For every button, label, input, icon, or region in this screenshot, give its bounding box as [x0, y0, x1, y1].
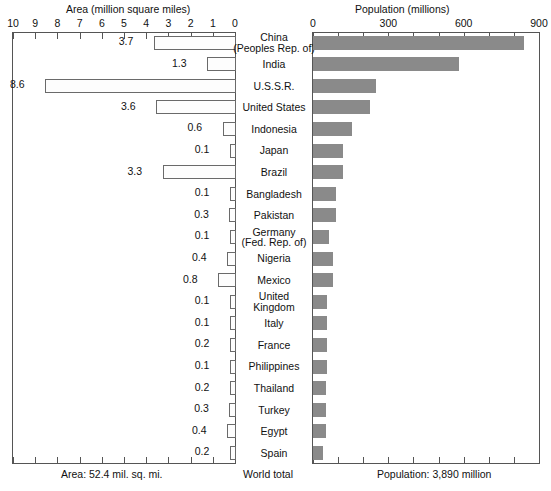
chart-row: 0.8Mexico: [0, 270, 551, 292]
area-bar: [230, 316, 236, 330]
area-bar-cell: 0.1: [0, 226, 236, 248]
left-tick-label-4: 4: [143, 17, 149, 29]
chart-row: 3.3Brazil: [0, 162, 551, 184]
population-bar-cell: [313, 32, 541, 54]
area-bar-cell: 0.3: [0, 205, 236, 227]
population-bar: [313, 122, 352, 136]
country-label: Thailand: [238, 378, 310, 400]
chart-row: 0.6Indonesia: [0, 118, 551, 140]
left-tick-label-1: 1: [210, 17, 216, 29]
chart-row: 3.7China(Peoples Rep. of): [0, 32, 551, 54]
population-bar: [313, 36, 524, 50]
population-bar: [313, 57, 459, 71]
country-label-line: Thailand: [254, 383, 294, 394]
country-label: Brazil: [238, 162, 310, 184]
country-label: Italy: [238, 313, 310, 335]
population-bar-cell: [313, 356, 541, 378]
area-value-label: 0.2: [195, 381, 213, 393]
area-value-label: 0.2: [195, 445, 213, 457]
area-bar: [227, 252, 236, 266]
left-tick-label-9: 9: [32, 17, 38, 29]
left-tick-label-10: 10: [7, 17, 19, 29]
area-bar-cell: 0.1: [0, 313, 236, 335]
population-bar-cell: [313, 226, 541, 248]
area-value-label: 0.3: [194, 208, 212, 220]
population-bar: [313, 100, 370, 114]
country-label-line: Turkey: [258, 405, 290, 416]
population-bar-cell: [313, 118, 541, 140]
chart-row: 0.1Italy: [0, 313, 551, 335]
area-bar-cell: 3.3: [0, 162, 236, 184]
country-label-line: Pakistan: [254, 210, 294, 221]
left-tick-label-2: 2: [188, 17, 194, 29]
country-label: U.S.S.R.: [238, 75, 310, 97]
population-bar: [313, 187, 336, 201]
footer-population-total: Population: 3,890 million: [377, 468, 491, 480]
population-bar: [313, 165, 343, 179]
country-label: Mexico: [238, 270, 310, 292]
population-bar-cell: [313, 442, 541, 464]
country-label: China(Peoples Rep. of): [238, 32, 310, 54]
area-bar-cell: 0.1: [0, 356, 236, 378]
country-label: UnitedKingdom: [238, 291, 310, 313]
area-value-label: 0.1: [195, 143, 213, 155]
country-label: Japan: [238, 140, 310, 162]
right-tick-label-0: 0: [310, 17, 316, 29]
population-bar-cell: [313, 54, 541, 76]
area-bar: [230, 144, 236, 158]
population-bar-cell: [313, 270, 541, 292]
population-bar-cell: [313, 291, 541, 313]
country-label: Nigeria: [238, 248, 310, 270]
area-value-label: 0.4: [192, 424, 210, 436]
country-label-line: Egypt: [261, 426, 288, 437]
left-tick-label-5: 5: [121, 17, 127, 29]
chart-row: 0.4Nigeria: [0, 248, 551, 270]
chart-rows: 3.7China(Peoples Rep. of)1.3India8.6U.S.…: [0, 32, 551, 464]
area-bar: [230, 187, 236, 201]
country-label-line: U.S.S.R.: [254, 81, 295, 92]
chart-row: 3.6United States: [0, 97, 551, 119]
population-bar-cell: [313, 183, 541, 205]
chart-row: 0.1Philippines: [0, 356, 551, 378]
area-value-label: 0.8: [183, 273, 201, 285]
population-bar: [313, 273, 333, 287]
country-label: Pakistan: [238, 205, 310, 227]
area-value-label: 8.6: [10, 78, 28, 90]
population-bar: [313, 79, 376, 93]
area-bar: [163, 165, 236, 179]
chart-row: 0.4Egypt: [0, 421, 551, 443]
area-bar-cell: 0.2: [0, 442, 236, 464]
area-value-label: 0.3: [194, 402, 212, 414]
chart-row: 0.3Pakistan: [0, 205, 551, 227]
population-bar-cell: [313, 313, 541, 335]
population-bar-cell: [313, 162, 541, 184]
country-label-line: Nigeria: [257, 253, 290, 264]
population-bar: [313, 230, 329, 244]
population-bar-cell: [313, 399, 541, 421]
area-bar-cell: 0.2: [0, 378, 236, 400]
area-bar: [45, 79, 236, 93]
area-bar: [227, 424, 236, 438]
area-value-label: 0.1: [195, 294, 213, 306]
area-bar-cell: 8.6: [0, 75, 236, 97]
population-bar-cell: [313, 378, 541, 400]
area-bar: [229, 208, 236, 222]
chart-row: 8.6U.S.S.R.: [0, 75, 551, 97]
chart-row: 0.1Japan: [0, 140, 551, 162]
chart-row: 0.1Germany(Fed. Rep. of): [0, 226, 551, 248]
country-label-line: United States: [242, 102, 305, 113]
area-bar: [223, 122, 236, 136]
area-bar: [207, 57, 236, 71]
area-bar-cell: 0.2: [0, 334, 236, 356]
area-bar-cell: 3.6: [0, 97, 236, 119]
country-label: Philippines: [238, 356, 310, 378]
area-value-label: 3.6: [121, 100, 139, 112]
area-bar: [229, 403, 236, 417]
chart-row: 0.1UnitedKingdom: [0, 291, 551, 313]
population-bar: [313, 446, 323, 460]
chart-row: 0.3Turkey: [0, 399, 551, 421]
country-label-line: Italy: [264, 318, 283, 329]
population-bar-cell: [313, 97, 541, 119]
right-tick-label-900: 900: [530, 17, 548, 29]
country-label: Indonesia: [238, 118, 310, 140]
